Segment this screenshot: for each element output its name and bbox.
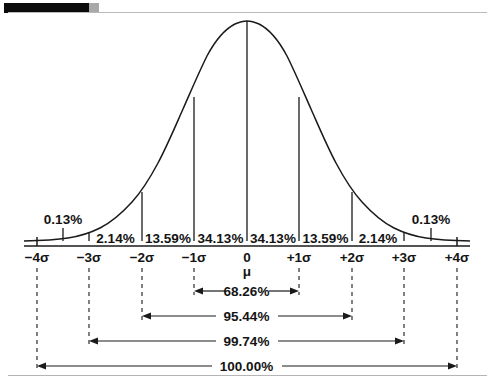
normal-distribution-figure: 0.13% 0.13% 2.14% 13.59% 34.13% 34.13% 1… — [0, 0, 494, 392]
axis-tick-label-plus1sigma: +1σ — [287, 250, 312, 265]
band-label-plus1-plus2: 13.59% — [303, 231, 349, 246]
axis-tick-label-minus1sigma: −1σ — [182, 250, 207, 265]
span-arrow-68: 68.26% — [194, 284, 299, 299]
band-label-minus3-minus2: 2.14% — [96, 231, 134, 246]
axis-tick-label-plus2sigma: +2σ — [340, 250, 365, 265]
span-arrow-100: 100.00% — [37, 359, 457, 374]
axis-tick-label-plus4sigma: +4σ — [445, 250, 470, 265]
axis-tick-label-minus3sigma: −3σ — [77, 250, 102, 265]
span-arrow-99: 99.74% — [89, 334, 404, 349]
span-arrow-95: 95.44% — [142, 309, 352, 324]
axis-tick-label-minus2sigma: −2σ — [130, 250, 155, 265]
span-label-68: 68.26% — [224, 284, 270, 299]
bottom-horizontal-rule — [8, 375, 487, 376]
axis-tick-label-mu: μ — [243, 264, 251, 279]
band-label-plus2-plus3: 2.14% — [359, 231, 397, 246]
span-label-99: 99.74% — [224, 334, 270, 349]
bell-curve-chart: 0.13% 0.13% 2.14% 13.59% 34.13% 34.13% 1… — [0, 0, 494, 392]
axis-tick-label-minus4sigma: −4σ — [25, 250, 50, 265]
span-label-100: 100.00% — [220, 359, 273, 374]
span-label-95: 95.44% — [224, 309, 270, 324]
band-label-minus1-mean: 34.13% — [198, 231, 244, 246]
axis-tick-label-plus3sigma: +3σ — [392, 250, 417, 265]
tail-label-right: 0.13% — [412, 212, 450, 227]
band-label-minus2-minus1: 13.59% — [145, 231, 191, 246]
axis-tick-label-mean-zero: 0 — [243, 250, 251, 265]
tail-label-left: 0.13% — [44, 212, 82, 227]
band-label-mean-plus1: 34.13% — [250, 231, 296, 246]
